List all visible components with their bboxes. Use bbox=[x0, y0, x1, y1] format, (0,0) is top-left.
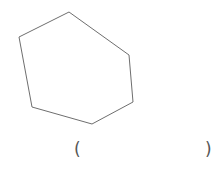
hexagon-shape bbox=[19, 12, 133, 124]
answer-close-paren: ) bbox=[205, 139, 212, 159]
answer-blank[interactable] bbox=[84, 139, 202, 159]
answer-open-paren: ( bbox=[74, 139, 81, 159]
